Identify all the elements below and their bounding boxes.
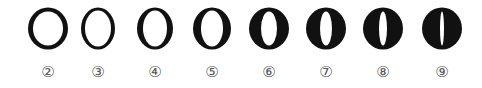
glyph-number-label: ⑤ xyxy=(197,63,227,81)
glyph-number-label: ⑦ xyxy=(311,63,341,81)
letter-o-glyph xyxy=(81,8,115,50)
letter-o-glyph xyxy=(28,8,68,50)
letter-o-glyph xyxy=(306,8,346,50)
glyph-number-label: ⑨ xyxy=(427,63,457,81)
letter-o-glyph xyxy=(137,8,173,50)
glyph-number-label: ④ xyxy=(140,63,170,81)
glyph-number-label: ② xyxy=(33,63,63,81)
glyph-number-label: ③ xyxy=(83,63,113,81)
letter-o-glyph xyxy=(422,8,462,50)
letter-o-glyph xyxy=(193,8,231,50)
glyph-number-label: ⑧ xyxy=(368,63,398,81)
letter-o-weight-progression xyxy=(0,0,482,88)
letter-o-glyph xyxy=(363,8,403,50)
glyph-number-label: ⑥ xyxy=(254,63,284,81)
letter-o-glyph xyxy=(249,8,289,50)
